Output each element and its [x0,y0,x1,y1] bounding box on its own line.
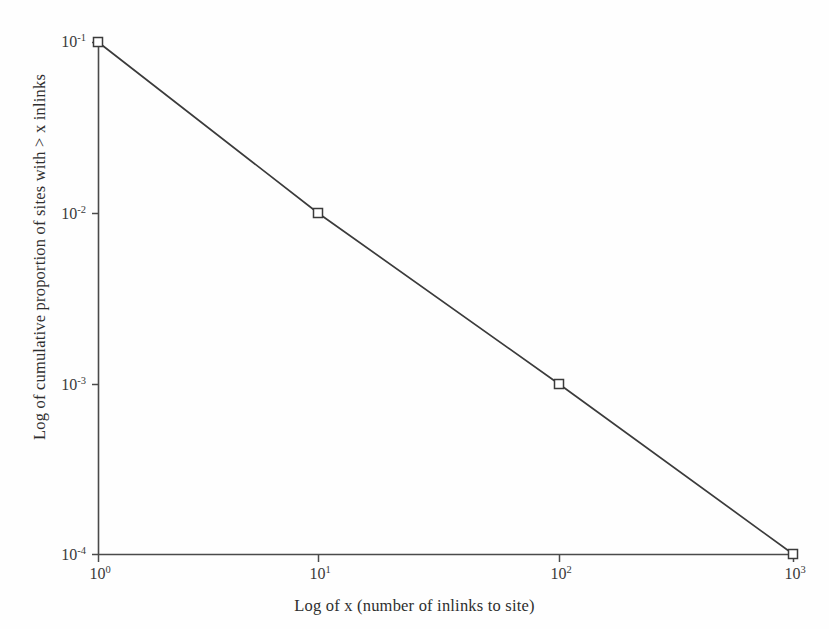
x-tick-label-2: 101 [309,566,330,582]
data-point-marker [555,380,564,389]
y-tick-label-4: 10-4 [34,547,86,563]
x-tick-label-3: 102 [550,566,571,582]
data-point-marker [789,550,798,559]
y-tick-mantissa: 10 [61,546,77,563]
y-tick-exponent: -4 [77,545,86,556]
data-line-series-1 [98,42,793,554]
x-tick-mantissa: 10 [784,565,800,582]
x-tick-exponent: 3 [800,564,805,575]
y-tick-exponent: -1 [77,32,86,43]
x-tick-mantissa: 10 [550,565,566,582]
data-point-marker [94,38,103,47]
x-tick-label-4: 103 [784,566,805,582]
y-tick-mantissa: 10 [61,205,77,222]
y-axis-title: Log of cumulative proportion of sites wi… [30,37,50,477]
x-axis-title: Log of x (number of inlinks to site) [0,596,829,616]
y-tick-exponent: -3 [77,375,86,386]
x-tick-mantissa: 10 [89,565,105,582]
x-tick-label-1: 100 [89,566,110,582]
x-tick-exponent: 2 [566,564,571,575]
y-tick-mantissa: 10 [61,33,77,50]
x-tick-mantissa: 10 [309,565,325,582]
x-tick-exponent: 1 [325,564,330,575]
y-tick-exponent: -2 [77,204,86,215]
plot-canvas [0,0,829,629]
x-tick-exponent: 0 [105,564,110,575]
data-point-marker [314,209,323,218]
chart-figure: 10-1 10-2 10-3 10-4 100 101 102 103 Log … [0,0,829,629]
y-tick-mantissa: 10 [61,376,77,393]
